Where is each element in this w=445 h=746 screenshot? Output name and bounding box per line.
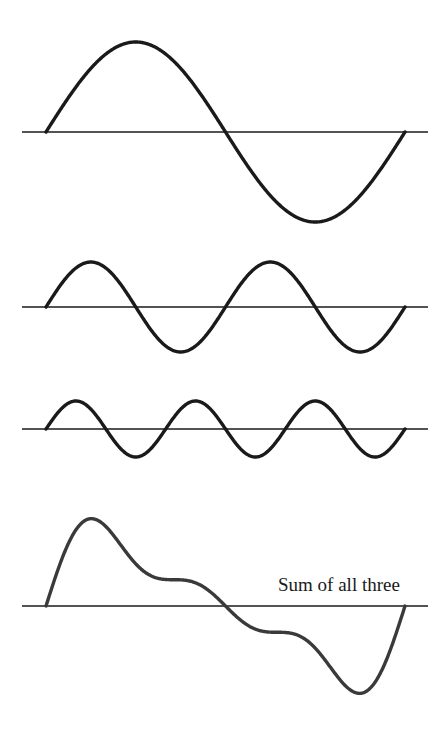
sum-label: Sum of all three: [278, 574, 400, 596]
waves-diagram: [0, 0, 445, 746]
